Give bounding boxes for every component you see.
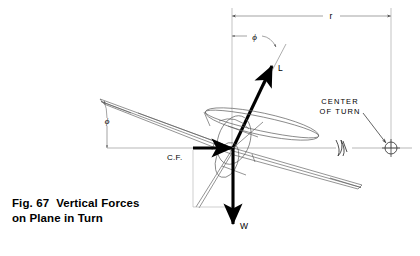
bank-angle-top: ϕ — [232, 32, 286, 87]
center-of-turn-leader-line — [363, 113, 386, 143]
centrifugal-force-label: C.F. — [167, 153, 182, 162]
aircraft-fin-and-bracing — [196, 122, 263, 208]
bank-angle-top-label: ϕ — [252, 32, 257, 42]
phi-top-arc — [262, 36, 276, 47]
lift-vector-group: L — [233, 63, 283, 148]
radius-label: r — [330, 11, 333, 21]
aircraft-right-wing — [233, 148, 362, 189]
line-break-icon — [336, 140, 347, 156]
lift-vector-arrow — [233, 66, 272, 148]
figure-number: Fig. 67 — [12, 197, 49, 209]
bank-angle-left-label: ϕ — [105, 116, 110, 126]
figure-title-line-1: Vertical Forces — [56, 197, 139, 209]
aircraft-left-wing — [100, 99, 233, 154]
figure-vertical-forces-on-plane-in-turn: r ϕ L ϕ — [0, 0, 420, 256]
bank-angle-left: ϕ — [104, 101, 110, 148]
center-of-turn-label-line2: OF TURN — [320, 107, 361, 116]
weight-vector-group: W — [233, 148, 248, 231]
lift-vector-label: L — [278, 63, 283, 73]
aircraft-horizontal-stabilizer — [203, 101, 321, 147]
figure-caption-line-2: on Plane in Turn — [12, 211, 202, 226]
weight-vector-label: W — [240, 221, 248, 231]
figure-caption-line-1: Fig. 67Vertical Forces — [12, 196, 202, 211]
figure-caption: Fig. 67Vertical Forces on Plane in Turn — [12, 196, 202, 226]
center-of-turn-label-line1: CENTER — [321, 97, 358, 106]
